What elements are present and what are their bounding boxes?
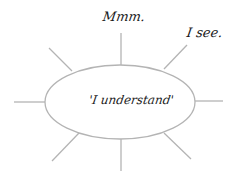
spoke-label-top: Mmm.	[102, 9, 146, 24]
center-label: 'I understand'	[88, 93, 175, 107]
spoke-top-right	[164, 45, 187, 69]
spoke-bottom-left	[52, 133, 79, 161]
spider-diagram: Mmm. I see. 'I understand'	[0, 0, 234, 179]
spoke-label-top-right: I see.	[186, 25, 224, 40]
spoke-top-left	[49, 48, 72, 71]
spoke-bottom-right	[164, 133, 191, 159]
